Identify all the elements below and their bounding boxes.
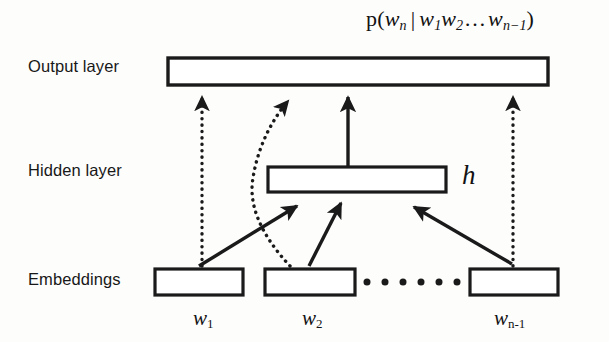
- embedding-box-w1: [155, 269, 243, 295]
- embedding-caption-w2-sub: 2: [316, 316, 323, 331]
- embedding-box-w2: [265, 269, 355, 295]
- solid-arrow-w2-to-hidden: [309, 203, 341, 266]
- embedding-caption-w1-var: w: [193, 306, 207, 330]
- neural-network-diagram: Output layer Hidden layer Embeddings p(w…: [0, 0, 609, 342]
- probability-formula: p(wn|w1w2…wn−1): [366, 6, 534, 34]
- embedding-ellipsis-dots: [364, 279, 461, 286]
- formula-p: p: [366, 6, 377, 31]
- output-layer-box: [168, 58, 548, 85]
- hidden-layer-box: [268, 167, 446, 192]
- embeddings-label: Embeddings: [28, 270, 121, 289]
- formula-context-1-var: w: [419, 6, 434, 31]
- embedding-caption-w2: w2: [302, 306, 323, 332]
- formula-open-paren: (: [377, 6, 385, 31]
- formula-separator: |: [407, 6, 420, 31]
- embedding-caption-w1: w1: [193, 306, 214, 332]
- formula-target-sub: n: [400, 17, 407, 33]
- embedding-caption-wn-1: wn-1: [494, 306, 525, 332]
- formula-context-last-sub: n−1: [503, 17, 527, 33]
- formula-ellipsis: …: [463, 6, 488, 31]
- embedding-box-wn-1: [470, 269, 558, 295]
- embedding-caption-w1-sub: 1: [207, 316, 214, 331]
- hidden-vector-label: h: [462, 160, 476, 191]
- formula-context-2-var: w: [441, 6, 456, 31]
- solid-arrow-wn-to-hidden: [414, 207, 512, 264]
- output-layer-label: Output layer: [28, 57, 119, 76]
- embedding-caption-w2-var: w: [302, 306, 316, 330]
- formula-close-paren: ): [527, 6, 535, 31]
- formula-context-last-var: w: [488, 6, 503, 31]
- formula-target-var: w: [385, 6, 400, 31]
- embedding-caption-wn-1-sub: n-1: [508, 316, 525, 331]
- hidden-layer-label: Hidden layer: [28, 161, 122, 180]
- embedding-caption-wn-1-var: w: [494, 306, 508, 330]
